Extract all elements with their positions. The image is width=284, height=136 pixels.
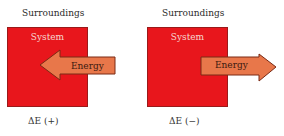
delta-symbol: ΔE <box>169 116 182 126</box>
surroundings-label: Surroundings <box>162 8 224 18</box>
delta-e-negative: ΔE (−) <box>169 116 200 126</box>
delta-sign: (+) <box>44 116 59 126</box>
delta-sign: (−) <box>185 116 200 126</box>
panel-energy-in: Surroundings System Energy ΔE (+) <box>0 0 142 136</box>
system-label: System <box>8 32 87 42</box>
energy-label: Energy <box>71 61 104 71</box>
energy-label: Energy <box>215 60 248 70</box>
delta-e-positive: ΔE (+) <box>28 116 59 126</box>
system-label: System <box>148 32 227 42</box>
delta-symbol: ΔE <box>28 116 41 126</box>
surroundings-label: Surroundings <box>22 8 84 18</box>
panel-energy-out: Surroundings System Energy ΔE (−) <box>142 0 284 136</box>
